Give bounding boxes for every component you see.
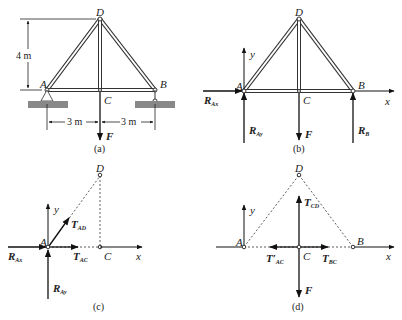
joint-a bbox=[242, 245, 246, 249]
y-axis-label: y bbox=[249, 48, 255, 60]
force-tcd-label: TCD bbox=[304, 196, 320, 209]
node-label-c: C bbox=[104, 250, 112, 262]
height-dimension bbox=[20, 19, 96, 90]
node-label-d: D bbox=[294, 6, 303, 18]
node-label-d: D bbox=[95, 162, 104, 174]
force-f-label: F bbox=[304, 284, 313, 296]
force-f-label: F bbox=[304, 128, 313, 140]
node-label-c: C bbox=[303, 250, 311, 262]
joint-c bbox=[298, 90, 301, 93]
force-ray-label: RAy bbox=[248, 124, 263, 137]
node-label-b: B bbox=[358, 79, 365, 91]
panel-d: y x TCD T′AC TBC F A D B C (d) bbox=[216, 162, 394, 313]
force-rax-label: RAx bbox=[203, 94, 218, 107]
dashed-member-db bbox=[299, 175, 353, 247]
panel-b: y x RAx RAy F RB A D B C (b) bbox=[203, 6, 394, 155]
right-span-label: 3 m bbox=[121, 116, 137, 127]
caption-d: (d) bbox=[292, 301, 304, 313]
caption-c: (c) bbox=[93, 301, 104, 313]
force-ray-label: RAy bbox=[52, 282, 67, 295]
y-axis-label: y bbox=[249, 204, 255, 216]
force-tac-prime-label: T′AC bbox=[266, 252, 285, 265]
truss-figure: 4 m 3 m 3 m F A D B C (a) bbox=[0, 0, 402, 320]
height-label: 4 m bbox=[16, 50, 32, 61]
left-span-label: 3 m bbox=[67, 116, 83, 127]
node-label-a: A bbox=[235, 236, 243, 248]
node-label-b: B bbox=[357, 235, 364, 247]
joint-b bbox=[351, 245, 355, 249]
node-label-a: A bbox=[39, 78, 47, 90]
truss-members bbox=[244, 19, 353, 91]
load-label: F bbox=[105, 130, 114, 142]
force-tbc-label: TBC bbox=[322, 252, 338, 265]
force-rb-label: RB bbox=[357, 124, 369, 137]
truss-members bbox=[47, 19, 155, 90]
panel-c: y x RAx RAy TAD TAC A D C (c) bbox=[7, 162, 142, 313]
node-label-b: B bbox=[160, 78, 167, 90]
x-axis-label: x bbox=[384, 95, 390, 107]
panel-a: 4 m 3 m 3 m F A D B C (a) bbox=[16, 6, 175, 155]
x-axis-label: x bbox=[385, 250, 391, 262]
joint-a bbox=[46, 245, 50, 249]
node-label-c: C bbox=[104, 94, 112, 106]
node-label-d: D bbox=[294, 162, 303, 174]
force-rax-label: RAx bbox=[7, 250, 22, 263]
x-axis-label: x bbox=[135, 250, 141, 262]
node-label-d: D bbox=[95, 6, 104, 18]
joint-c bbox=[99, 89, 102, 92]
force-tad-label: TAD bbox=[71, 218, 87, 231]
pin-support-icon bbox=[28, 90, 68, 108]
force-tac-label: TAC bbox=[73, 250, 89, 263]
node-label-a: A bbox=[235, 80, 243, 92]
node-label-a: A bbox=[39, 236, 47, 248]
force-tad-arrow bbox=[49, 218, 69, 246]
joint-c bbox=[297, 245, 301, 249]
caption-b: (b) bbox=[293, 143, 305, 155]
caption-a: (a) bbox=[94, 143, 105, 155]
node-label-c: C bbox=[303, 94, 311, 106]
joint-b bbox=[351, 89, 355, 93]
y-axis-label: y bbox=[53, 203, 59, 215]
